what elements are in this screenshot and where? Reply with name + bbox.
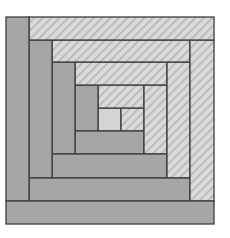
quilt-piece-r2-left-dark [52,62,75,154]
quilt-piece-r1-top-light [98,85,144,108]
quilt-piece-r4-bottom-dark [6,201,214,224]
log-cabin-quilt-block [0,0,230,238]
quilt-piece-r3-bottom-dark [29,178,190,201]
quilt-pieces [6,17,214,224]
quilt-piece-r3-left-dark [29,40,52,178]
quilt-piece-r4-right-light [190,40,214,201]
quilt-piece-center [98,108,121,131]
quilt-piece-r4-left-dark [6,17,29,201]
quilt-piece-r1-right-light [121,108,144,131]
quilt-piece-r2-right-light [144,85,167,154]
quilt-piece-r2-top-light [75,62,167,85]
quilt-piece-r4-top-light [29,17,214,40]
quilt-piece-r3-right-light [167,62,190,178]
quilt-piece-r2-bottom-dark [52,154,167,178]
quilt-piece-r1-bottom-dark [75,131,144,154]
quilt-piece-r3-top-light [52,40,190,62]
quilt-piece-r1-left-dark [75,85,98,131]
